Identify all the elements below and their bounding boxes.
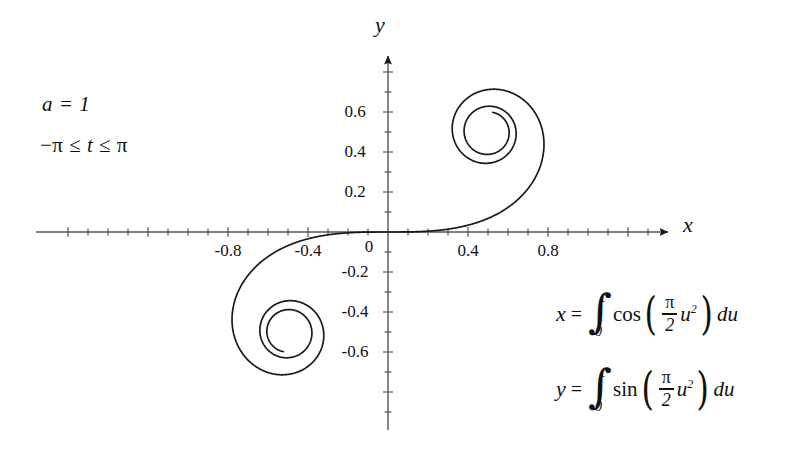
open-paren-y: ( [641, 371, 653, 407]
argument-base: u [677, 377, 688, 401]
equation-x-differential: du [717, 302, 738, 327]
fraction-pi-over-2-y: π 2 [659, 368, 674, 409]
equation-x: x = ∫ t 0 cos ( π 2 u2 ) du [556, 292, 738, 336]
fraction-denominator: 2 [659, 391, 674, 410]
x-tick-label: 0.4 [445, 242, 491, 259]
integral-lower-limit: 0 [595, 399, 602, 415]
origin-label: 0 [356, 238, 382, 255]
equation-x-argument: u2 [680, 302, 697, 327]
argument-base: u [680, 302, 691, 326]
close-paren-y: ) [697, 371, 709, 407]
equation-y-lhs: y [556, 376, 566, 402]
integral-upper-limit: t [601, 365, 605, 381]
close-paren-x: ) [700, 296, 712, 332]
y-tick-label: 0.2 [332, 183, 378, 200]
equation-y-argument: u2 [677, 377, 694, 402]
figure-canvas: a = 1 −π ≤ t ≤ π y x -0.8-0.40.40.80.60.… [0, 0, 804, 451]
x-tick-label: 0.8 [525, 242, 571, 259]
fraction-numerator: π [659, 368, 674, 387]
y-tick-label: 0.4 [332, 143, 378, 160]
y-tick-label: 0.6 [332, 103, 378, 120]
y-tick-label: -0.2 [332, 263, 378, 280]
x-tick-label: -0.8 [205, 242, 251, 259]
equation-y-differential: du [714, 377, 735, 402]
integral-lower-limit: 0 [595, 324, 602, 340]
argument-exponent: 2 [691, 302, 697, 316]
equation-x-function: cos [613, 302, 641, 327]
equation-y-function: sin [613, 377, 638, 402]
equation-x-equals: = [571, 303, 582, 326]
argument-exponent: 2 [687, 377, 693, 391]
fraction-numerator: π [662, 293, 677, 312]
y-tick-label: -0.6 [332, 343, 378, 360]
fraction-denominator: 2 [662, 316, 677, 335]
x-tick-label: -0.4 [285, 242, 331, 259]
fraction-pi-over-2-x: π 2 [662, 293, 677, 334]
integral-sign-x: ∫ t 0 [588, 292, 608, 336]
y-tick-label: -0.4 [332, 303, 378, 320]
integral-upper-limit: t [601, 290, 605, 306]
equation-y: y = ∫ t 0 sin ( π 2 u2 ) du [556, 367, 735, 411]
equation-x-lhs: x [556, 301, 566, 327]
equation-y-equals: = [571, 378, 582, 401]
open-paren-x: ( [644, 296, 656, 332]
integral-sign-y: ∫ t 0 [588, 367, 608, 411]
